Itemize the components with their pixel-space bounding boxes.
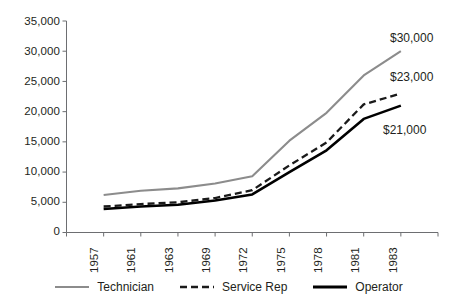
legend-label: Technician [97,281,154,293]
legend-item-service-rep[interactable]: Service Rep [180,281,287,293]
legend-swatch-solid-black-icon [313,281,347,293]
legend-item-operator[interactable]: Operator [313,281,402,293]
series-value-label-operator: $21,000 [383,124,426,136]
legend-label: Operator [355,281,402,293]
series-value-label-technician: $30,000 [390,32,433,44]
x-axis-ticks [67,233,439,237]
series-value-label-service-rep: $23,000 [390,71,433,83]
legend-swatch-solid-gray-icon [55,281,89,293]
legend-label: Service Rep [222,281,287,293]
legend-item-technician[interactable]: Technician [55,281,154,293]
line-chart: 35,000 30,000 25,000 20,000 15,000 10,00… [0,0,458,307]
series-line-technician [104,51,401,195]
series-line-operator [104,106,401,209]
y-axis-ticks [63,21,67,233]
series-lines [104,51,401,209]
legend-swatch-dashed-black-icon [180,281,214,293]
chart-legend: Technician Service Rep Operator [0,281,458,293]
plot-area [0,0,458,307]
